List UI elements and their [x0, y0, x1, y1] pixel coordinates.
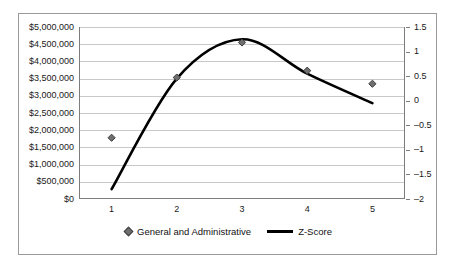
right-axis-tick-mark: [406, 150, 410, 151]
right-axis-tick-mark: [406, 76, 410, 77]
chart-frame: $5,000,000$4,500,000$4,000,000$3,500,000…: [18, 13, 437, 255]
left-axis-tick-label: $2,500,000: [29, 109, 74, 118]
left-axis-tick-label: $2,000,000: [29, 126, 74, 135]
data-point-marker: [369, 80, 376, 87]
right-axis-tick-label: 0: [414, 96, 419, 105]
left-axis-tick-label: $1,500,000: [29, 143, 74, 152]
x-axis: 12345: [79, 204, 405, 218]
left-axis-tick-label: $5,000,000: [29, 23, 74, 32]
right-axis-tick-label: –2: [414, 195, 424, 204]
left-axis: $5,000,000$4,500,000$4,000,000$3,500,000…: [19, 27, 77, 199]
x-axis-tick-label: 2: [174, 204, 179, 214]
data-point-marker: [108, 134, 115, 141]
x-axis-tick-label: 1: [109, 204, 114, 214]
right-axis-tick-mark: [406, 125, 410, 126]
diamond-marker-icon: [124, 227, 134, 237]
right-axis-tick-label: –1.5: [414, 170, 432, 179]
left-axis-tick-label: $0: [64, 195, 74, 204]
z-score-line: [112, 39, 373, 189]
right-axis-tick-mark: [406, 199, 410, 200]
right-axis-tick-label: 1: [414, 47, 419, 56]
right-axis-tick-label: 1.5: [414, 23, 427, 32]
left-axis-tick-label: $500,000: [36, 177, 74, 186]
right-axis: 1.510.50–0.5–1–1.5–2: [408, 27, 440, 199]
right-axis-tick-mark: [406, 174, 410, 175]
line-marker-icon: [267, 230, 293, 233]
left-axis-tick-label: $3,500,000: [29, 74, 74, 83]
right-axis-tick-mark: [406, 101, 410, 102]
left-axis-tick-label: $1,000,000: [29, 160, 74, 169]
legend-entry[interactable]: Z-Score: [267, 226, 332, 237]
right-axis-tick-mark: [406, 27, 410, 28]
x-axis-tick-label: 5: [370, 204, 375, 214]
right-axis-tick-label: 0.5: [414, 72, 427, 81]
right-axis-tick-label: –0.5: [414, 121, 432, 130]
left-axis-tick-label: $4,500,000: [29, 40, 74, 49]
chart-legend: General and AdministrativeZ-Score: [19, 226, 438, 237]
x-axis-tick-label: 4: [305, 204, 310, 214]
right-axis-tick-mark: [406, 52, 410, 53]
left-axis-tick-label: $3,000,000: [29, 91, 74, 100]
left-axis-tick-label: $4,000,000: [29, 57, 74, 66]
legend-entry[interactable]: General and Administrative: [125, 226, 251, 237]
x-axis-tick-label: 3: [239, 204, 244, 214]
series-layer: [79, 27, 405, 199]
right-axis-tick-label: –1: [414, 145, 424, 154]
legend-label: Z-Score: [298, 226, 332, 237]
legend-label: General and Administrative: [137, 226, 251, 237]
